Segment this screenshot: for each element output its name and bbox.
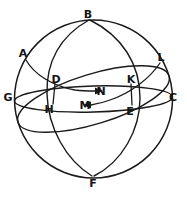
point-label-F: F [89, 178, 97, 189]
figure-canvas [0, 0, 187, 201]
sphere-outline-circle [15, 20, 173, 178]
point-label-B: B [84, 9, 92, 20]
tilted-great-circle-ellipse [11, 52, 177, 146]
point-label-G: G [3, 92, 12, 103]
point-label-A: A [19, 48, 28, 59]
point-label-N: N [96, 86, 105, 97]
point-label-H: H [44, 104, 53, 115]
point-label-L: L [157, 52, 164, 63]
point-label-E: E [126, 106, 134, 117]
sphere-geometry-figure: A B C D E F G H K L M N [0, 0, 187, 201]
equator-ellipse [14, 84, 173, 114]
point-label-D: D [51, 74, 60, 85]
point-label-K: K [127, 74, 136, 85]
point-label-C: C [169, 92, 177, 103]
point-label-M: M [80, 100, 91, 111]
